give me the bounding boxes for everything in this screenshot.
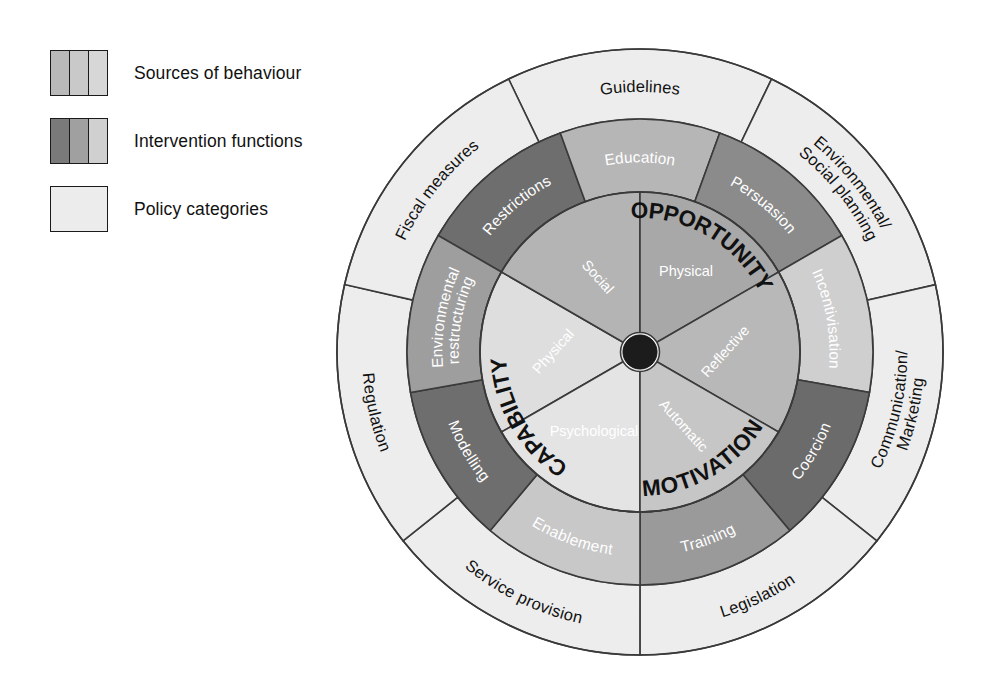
source-component-label: Psychological: [550, 423, 639, 439]
behaviour-change-wheel-figure: Sources of behaviour Intervention functi…: [0, 0, 988, 693]
wheel-diagram: PhysicalPsychologicalSocialPhysicalRefle…: [335, 47, 945, 657]
legend-label-policies: Policy categories: [134, 199, 268, 220]
legend-label-interventions: Intervention functions: [134, 131, 303, 152]
legend: Sources of behaviour Intervention functi…: [50, 50, 303, 254]
legend-item-sources: Sources of behaviour: [50, 50, 303, 96]
legend-swatch-interventions: [50, 118, 108, 164]
legend-item-interventions: Intervention functions: [50, 118, 303, 164]
policy-category-label: Guidelines: [599, 77, 682, 98]
hub-center: [623, 335, 657, 369]
legend-swatch-sources: [50, 50, 108, 96]
legend-item-policies: Policy categories: [50, 186, 303, 232]
legend-swatch-policies: [50, 186, 108, 232]
source-component-label: Physical: [659, 263, 713, 279]
legend-label-sources: Sources of behaviour: [134, 63, 301, 84]
wheel-svg: PhysicalPsychologicalSocialPhysicalRefle…: [335, 47, 945, 657]
